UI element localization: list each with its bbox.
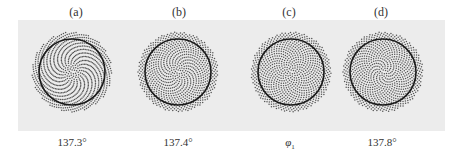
phyllotaxis-figure — [0, 0, 462, 154]
phi-subscript: 1 — [291, 143, 295, 151]
panel-label-a: (a) — [69, 5, 82, 20]
phyllotaxis-pattern-b — [137, 31, 218, 112]
phyllotaxis-pattern-a — [31, 32, 112, 113]
panel-label-d: (d) — [374, 5, 388, 20]
panel-caption-c: φ1 — [285, 136, 295, 151]
panel-label-c: (c) — [282, 5, 295, 20]
panel-caption-b: 137.4° — [163, 136, 192, 148]
panel-label-b: (b) — [172, 5, 186, 20]
phyllotaxis-pattern-d — [342, 31, 423, 112]
panel-caption-d: 137.8° — [367, 136, 396, 148]
panel-caption-a: 137.3° — [57, 136, 86, 148]
phyllotaxis-pattern-c — [251, 32, 332, 113]
